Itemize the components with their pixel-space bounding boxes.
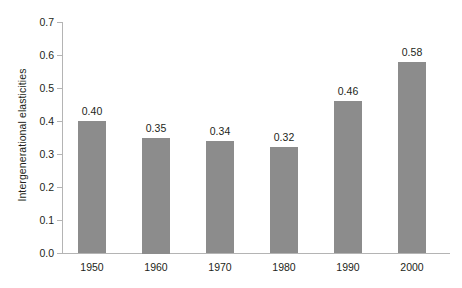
- bar-value-label: 0.34: [190, 126, 250, 137]
- y-axis-title: Intergenerational elasticities: [8, 0, 36, 270]
- y-axis-tick-label: 0.1: [18, 215, 54, 226]
- y-axis-tick: [57, 88, 62, 89]
- bar: [142, 138, 170, 254]
- y-axis-tick-label: 0.7: [18, 17, 54, 28]
- y-axis-tick-label: 0.2: [18, 182, 54, 193]
- y-axis-tick: [57, 220, 62, 221]
- y-axis-tick: [57, 55, 62, 56]
- bar-value-label: 0.32: [254, 132, 314, 143]
- y-axis-tick: [57, 253, 62, 254]
- x-axis-tick-label: 1970: [190, 262, 250, 273]
- bar: [206, 141, 234, 253]
- y-axis-line: [62, 22, 63, 254]
- x-axis-tick-label: 1980: [254, 262, 314, 273]
- y-axis-tick: [57, 22, 62, 23]
- bar: [398, 62, 426, 253]
- y-axis-tick: [57, 121, 62, 122]
- bar-value-label: 0.46: [318, 86, 378, 97]
- x-axis-tick-label: 1990: [318, 262, 378, 273]
- y-axis-tick-label: 0.3: [18, 149, 54, 160]
- y-axis-tick: [57, 154, 62, 155]
- x-axis-tick-label: 1960: [126, 262, 186, 273]
- y-axis-tick: [57, 187, 62, 188]
- bar-value-label: 0.35: [126, 123, 186, 134]
- bar: [270, 147, 298, 253]
- x-axis-tick-label: 2000: [382, 262, 442, 273]
- y-axis-tick-label: 0.4: [18, 116, 54, 127]
- x-axis-tick-label: 1950: [62, 262, 122, 273]
- bar: [334, 101, 362, 253]
- y-axis-tick-label: 0.6: [18, 50, 54, 61]
- y-axis-tick-label: 0.0: [18, 248, 54, 259]
- bar-value-label: 0.40: [62, 106, 122, 117]
- bar: [78, 121, 106, 253]
- bar-chart: Intergenerational elasticities 0.00.10.2…: [0, 0, 462, 288]
- x-axis-line: [62, 253, 450, 254]
- y-axis-tick-label: 0.5: [18, 83, 54, 94]
- bar-value-label: 0.58: [382, 47, 442, 58]
